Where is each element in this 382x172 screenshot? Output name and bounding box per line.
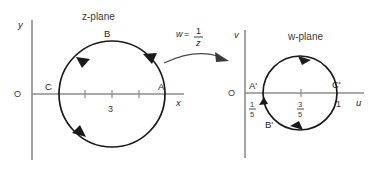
w-plane-point-c-prime-label: C': [332, 79, 341, 90]
transform-equals-sign: =: [184, 29, 189, 39]
w-plane-frac-a-numerator: 1: [250, 100, 254, 109]
z-plane-y-axis-label: y: [17, 19, 24, 30]
w-plane-arrowhead-a-prime: [259, 97, 268, 105]
w-plane-frac-center-numerator: 3: [298, 100, 302, 109]
transform-numerator: 1: [196, 26, 201, 36]
z-plane-title: z-plane: [82, 11, 115, 22]
w-plane-tick-label-1: 1: [336, 99, 341, 109]
transform-w-symbol: w: [176, 29, 183, 39]
w-plane-panel: w-plane v u O A' B' C' 1 5 3 5 1: [228, 29, 364, 158]
w-plane-u-axis-label: u: [356, 97, 362, 108]
z-plane-x-axis-label: x: [175, 97, 182, 108]
w-plane-frac-center-denominator: 5: [298, 110, 302, 119]
transform-annotation: w = 1 z: [164, 26, 229, 63]
w-plane-origin-label: O: [228, 88, 235, 98]
z-plane-point-b-label: B: [104, 28, 110, 39]
w-plane-point-a-prime-label: A': [249, 80, 257, 91]
z-plane-panel: z-plane y x O 3 B A C: [14, 11, 184, 160]
w-plane-v-axis-label: v: [234, 29, 240, 40]
w-plane-title: w-plane: [287, 31, 323, 42]
complex-mapping-figure: z-plane y x O 3 B A C w = 1 z: [0, 0, 382, 172]
w-plane-frac-a-denominator: 5: [250, 110, 254, 119]
z-plane-point-a-label: A: [158, 81, 165, 92]
z-plane-origin-label: O: [14, 89, 21, 99]
transform-denominator: z: [195, 38, 201, 48]
z-plane-arrowhead-upper-left: [76, 57, 90, 68]
z-plane-point-c-label: C: [45, 81, 52, 92]
figure-canvas: z-plane y x O 3 B A C w = 1 z: [0, 0, 382, 172]
z-plane-tick-label-3: 3: [108, 104, 113, 114]
transform-arrow-curve: [164, 54, 220, 63]
w-plane-point-b-prime-label: B': [265, 119, 273, 130]
transform-arrowhead: [215, 52, 229, 62]
